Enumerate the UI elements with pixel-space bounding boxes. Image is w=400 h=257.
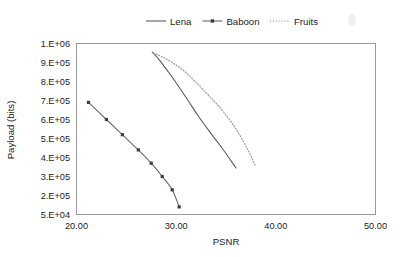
legend-marker-baboon (211, 19, 214, 22)
y-tick-label: 9.E+05 (41, 58, 70, 68)
y-tick-label: 5.E+04 (41, 210, 70, 220)
data-point-marker (137, 148, 140, 151)
legend-label-lena: Lena (170, 16, 192, 27)
chart-canvas: LenaBaboonFruits 5.E+042.E+053.E+054.E+0… (0, 0, 400, 257)
x-tick-label: 50.00 (364, 221, 387, 231)
y-tick-label: 8.E+05 (41, 77, 70, 87)
data-point-marker (121, 133, 124, 136)
y-tick-label: 3.E+05 (41, 172, 70, 182)
data-point-marker (150, 162, 153, 165)
scan-artifact (348, 14, 356, 26)
y-tick-label: 2.E+05 (41, 191, 70, 201)
legend-label-fruits: Fruits (294, 16, 318, 27)
y-tick-label: 5.E+05 (41, 134, 70, 144)
y-tick-label: 7.E+05 (41, 96, 70, 106)
data-point-marker (105, 118, 108, 121)
x-tick-label: 20.00 (65, 221, 88, 231)
y-axis-title: Payload (bits) (5, 101, 16, 160)
x-axis-title: PSNR (213, 236, 240, 247)
data-point-marker (178, 205, 181, 208)
data-point-marker (87, 101, 90, 104)
x-tick-label: 40.00 (264, 221, 287, 231)
x-tick-label: 30.00 (165, 221, 188, 231)
legend-label-baboon: Baboon (226, 16, 259, 27)
y-tick-label: 6.E+05 (41, 115, 70, 125)
y-tick-label: 4.E+05 (41, 153, 70, 163)
data-point-marker (161, 175, 164, 178)
y-tick-label: 1.E+06 (41, 39, 70, 49)
chart-figure: LenaBaboonFruits 5.E+042.E+053.E+054.E+0… (0, 0, 400, 257)
data-point-marker (171, 188, 174, 191)
